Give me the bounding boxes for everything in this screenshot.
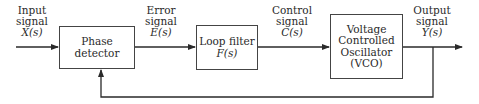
vco-line4: (VCO) xyxy=(338,58,394,70)
pll-block-diagram: Input signal X(s) Error signal E(s) Cont… xyxy=(0,0,479,104)
phase-detector-block: Phase detector xyxy=(59,26,135,69)
control-signal-label: Control signal C(s) xyxy=(272,5,312,38)
phase-detector-line2: detector xyxy=(75,48,120,60)
output-signal-label: Output signal Y(s) xyxy=(413,5,450,38)
input-signal-symbol: X(s) xyxy=(16,27,48,38)
error-signal-symbol: E(s) xyxy=(145,27,177,38)
loop-filter-transfer-fn: F(s) xyxy=(199,48,255,60)
vco-block: Voltage Controlled Oscillator (VCO) xyxy=(330,14,403,79)
vco-line2: Controlled xyxy=(338,35,394,47)
error-signal-label: Error signal E(s) xyxy=(145,5,177,38)
output-signal-symbol: Y(s) xyxy=(413,27,450,38)
control-signal-symbol: C(s) xyxy=(272,27,312,38)
phase-detector-line1: Phase xyxy=(75,36,120,48)
input-signal-label: Input signal X(s) xyxy=(16,5,48,38)
loop-filter-line1: Loop filter xyxy=(199,36,255,48)
loop-filter-block: Loop filter F(s) xyxy=(196,25,258,70)
